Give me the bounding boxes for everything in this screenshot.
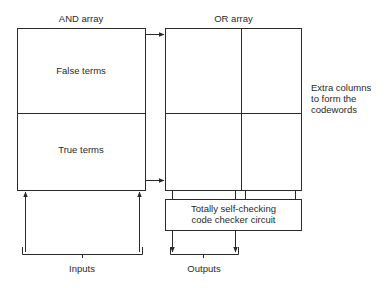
or-array-label: OR array — [165, 13, 302, 24]
outputs-label: Outputs — [174, 263, 234, 274]
inputs-label: Inputs — [52, 263, 112, 274]
true-terms-label: True terms — [17, 144, 145, 155]
or-array-box — [166, 29, 302, 191]
checker-label: Totally self-checking code checker circu… — [165, 203, 302, 225]
and-array-box — [18, 29, 146, 191]
outputs-bracket — [171, 247, 239, 255]
false-terms-label: False terms — [17, 65, 145, 76]
extra-columns-note: Extra columns to form the codewords — [311, 82, 371, 115]
and-array-label: AND array — [17, 13, 145, 24]
inputs-bracket — [23, 247, 143, 255]
